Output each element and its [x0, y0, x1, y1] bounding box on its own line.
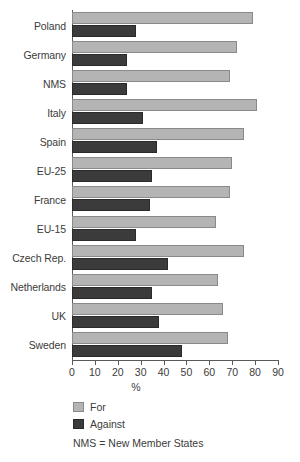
bar-group [72, 273, 278, 302]
x-tick-mark [118, 360, 119, 365]
bar-for [72, 332, 228, 344]
dark-gray-swatch-icon [73, 419, 84, 429]
bar-for [72, 245, 244, 257]
legend-item-for: For [73, 400, 125, 414]
bar-against [72, 316, 159, 328]
bar-group [72, 215, 278, 244]
category-label: UK [0, 302, 70, 331]
bar-against [72, 54, 127, 66]
x-tick-label: 40 [158, 366, 170, 378]
bar-for [72, 99, 257, 111]
x-tick-mark [164, 360, 165, 365]
x-tick-label: 90 [272, 366, 284, 378]
x-tick-mark [232, 360, 233, 365]
x-tick-label: 70 [226, 366, 238, 378]
category-label: Czech Rep. [0, 244, 70, 273]
bar-for [72, 157, 232, 169]
bar-for [72, 216, 216, 228]
plot-area: PolandGermanyNMSItalySpainEU-25FranceEU-… [0, 0, 300, 372]
x-tick-mark [209, 360, 210, 365]
bar-chart: PolandGermanyNMSItalySpainEU-25FranceEU-… [0, 0, 300, 462]
bar-for [72, 128, 244, 140]
bar-group [72, 40, 278, 69]
bar-group [72, 69, 278, 98]
category-label: EU-15 [0, 215, 70, 244]
bars-container [72, 11, 278, 360]
bar-against [72, 25, 136, 37]
bar-for [72, 274, 218, 286]
category-label: EU-25 [0, 156, 70, 185]
legend-label-against: Against [90, 418, 125, 430]
chart-footnote: NMS = New Member States [73, 437, 203, 449]
bar-for [72, 70, 230, 82]
bar-against [72, 170, 152, 182]
x-tick-mark [95, 360, 96, 365]
bar-against [72, 287, 152, 299]
x-axis-title-text: % [131, 381, 140, 393]
bar-for [72, 186, 230, 198]
bar-group [72, 244, 278, 273]
light-gray-swatch-icon [73, 402, 84, 412]
x-tick-mark [278, 360, 279, 365]
bar-group [72, 11, 278, 40]
category-label: Germany [0, 40, 70, 69]
legend-item-against: Against [73, 417, 125, 431]
bar-against [72, 258, 168, 270]
x-tick-label: 10 [89, 366, 101, 378]
bar-for [72, 303, 223, 315]
chart-legend: For Against [73, 400, 125, 434]
bar-against [72, 83, 127, 95]
category-label: Sweden [0, 331, 70, 360]
x-axis-tick-labels: 0102030405060708090 [0, 366, 300, 382]
x-tick-label: 0 [69, 366, 75, 378]
x-tick-mark [255, 360, 256, 365]
bar-for [72, 41, 237, 53]
bar-group [72, 302, 278, 331]
bar-against [72, 199, 150, 211]
bar-group [72, 185, 278, 214]
category-label: Spain [0, 127, 70, 156]
bar-against [72, 112, 143, 124]
bar-group [72, 156, 278, 185]
bar-group [72, 331, 278, 360]
x-tick-label: 20 [112, 366, 124, 378]
x-tick-label: 80 [249, 366, 261, 378]
x-tick-mark [72, 360, 73, 365]
category-label: NMS [0, 69, 70, 98]
bar-against [72, 229, 136, 241]
x-tick-label: 30 [135, 366, 147, 378]
bar-for [72, 12, 253, 24]
category-label: Poland [0, 11, 70, 40]
x-tick-label: 60 [203, 366, 215, 378]
category-label: Italy [0, 98, 70, 127]
bar-group [72, 98, 278, 127]
x-axis-title: % [0, 381, 300, 393]
x-tick-label: 50 [181, 366, 193, 378]
bar-against [72, 141, 157, 153]
category-label: France [0, 185, 70, 214]
category-axis-labels: PolandGermanyNMSItalySpainEU-25FranceEU-… [0, 11, 70, 360]
category-label: Netherlands [0, 273, 70, 302]
bar-against [72, 345, 182, 357]
bar-group [72, 127, 278, 156]
legend-label-for: For [90, 401, 106, 413]
x-tick-mark [141, 360, 142, 365]
x-tick-mark [186, 360, 187, 365]
